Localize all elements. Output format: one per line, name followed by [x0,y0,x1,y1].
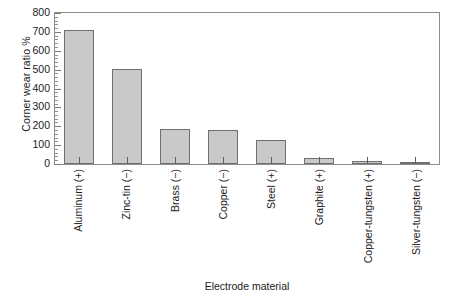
y-axis-tick-label: 800 [14,6,50,18]
y-axis-tick-labels: 8007006005004003002001000 [14,0,50,299]
x-axis-tick-label: Copper (−) [223,119,235,169]
x-axis-title: Electrode material [54,280,440,292]
bar-chart-figure: Corner wear ratio % 80070060050040030020… [0,0,453,299]
x-label-slot: Zinc-tin (−) [102,169,150,277]
y-axis-tick-label: 300 [14,100,50,112]
y-axis-tick-label: 700 [14,25,50,37]
x-axis-tick-label: Steel (+) [271,129,283,169]
y-axis-major-tick [55,164,61,165]
x-label-slot: Aluminum (+) [54,169,102,277]
y-axis-tick-label: 100 [14,138,50,150]
x-axis-tick-label: Copper-tungsten (+) [368,75,380,169]
bar-slot [391,13,439,164]
x-axis-tick-label: Zinc-tin (−) [126,119,138,169]
y-axis-tick-label: 400 [14,82,50,94]
x-label-slot: Copper (−) [199,169,247,277]
x-axis-tick-label: Silver-tungsten (−) [416,83,428,169]
x-label-slot: Silver-tungsten (−) [392,169,440,277]
x-axis-tick-label: Graphite (+) [319,113,331,169]
y-axis-tick-label: 0 [14,157,50,169]
x-label-slot: Graphite (+) [295,169,343,277]
x-axis-tick-label: Brass (−) [175,126,187,169]
x-label-slot: Steel (+) [247,169,295,277]
y-axis-tick-label: 600 [14,44,50,56]
y-axis-tick-label: 200 [14,119,50,131]
x-label-slot: Brass (−) [151,169,199,277]
y-axis-tick-label: 500 [14,63,50,75]
x-axis-tick-label: Aluminum (+) [78,106,90,169]
x-axis-tick-labels: Aluminum (+)Zinc-tin (−)Brass (−)Copper … [54,169,440,277]
bars-layer [55,13,439,164]
x-label-slot: Copper-tungsten (+) [344,169,392,277]
bar-slot [343,13,391,164]
plot-area [54,12,440,165]
